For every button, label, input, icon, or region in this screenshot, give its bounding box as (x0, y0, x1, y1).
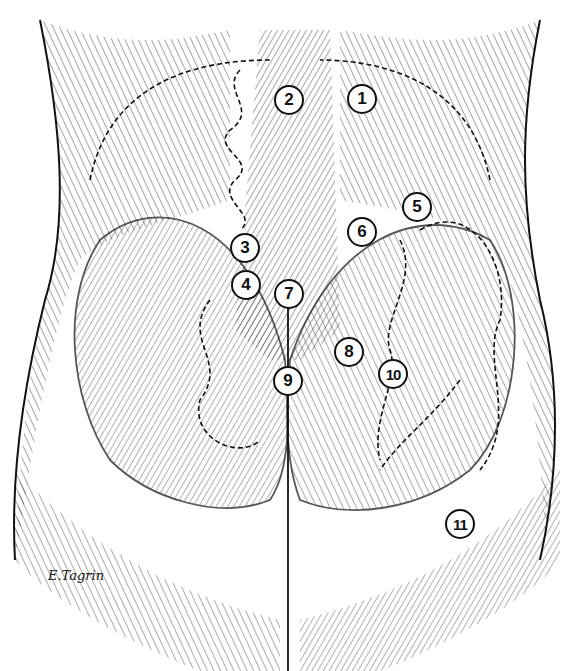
marker-8: 8 (334, 337, 364, 367)
marker-4: 4 (231, 270, 261, 300)
artist-signature: E.Tagrin (48, 568, 104, 583)
marker-11: 11 (445, 509, 475, 539)
marker-1: 1 (347, 84, 377, 114)
marker-3: 3 (230, 233, 260, 263)
marker-5: 5 (402, 192, 432, 222)
marker-6: 6 (347, 217, 377, 247)
marker-10: 10 (378, 359, 408, 389)
marker-7: 7 (274, 279, 304, 309)
marker-9: 9 (273, 366, 303, 396)
marker-2: 2 (274, 85, 304, 115)
